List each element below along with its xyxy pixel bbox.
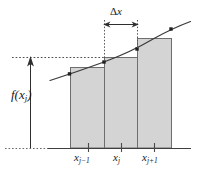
x-tick-label-2-subscript: j — [118, 156, 120, 165]
function-value-base: f(x — [11, 87, 25, 102]
curve-point-marker — [169, 27, 172, 30]
bar-rect-2 — [105, 58, 138, 149]
x-tick-label-3-subscript: j+1 — [147, 156, 158, 165]
x-tick-label-3: xj+1 — [142, 152, 158, 165]
delta-x-label: Δx — [110, 6, 122, 17]
x-tick-label-2: xj — [113, 152, 120, 165]
delta-x-variable: x — [117, 5, 122, 17]
y-axis-label-function-value: f(xj) — [11, 88, 32, 103]
x-tick-label-1-subscript: j−1 — [79, 156, 90, 165]
bar-rect-3 — [138, 39, 172, 149]
bar-rect-1 — [71, 68, 105, 149]
function-value-paren: ) — [27, 87, 31, 102]
riemann-sum-figure: f(xj) Δx xj−1 xj xj+1 — [0, 0, 199, 176]
curve-point-marker — [68, 72, 71, 75]
x-tick-label-1: xj−1 — [74, 152, 90, 165]
delta-x-arrow — [103, 21, 139, 27]
